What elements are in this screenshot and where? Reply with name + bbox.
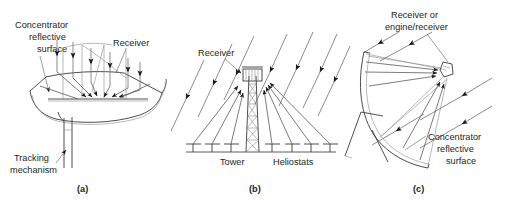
label-line-2: reflective	[29, 32, 66, 42]
label-tracking-mechanism: Tracking mechanism	[10, 150, 66, 175]
leader-line	[116, 49, 126, 73]
label-line-1: Concentrator	[428, 132, 481, 142]
label-tower: Tower	[220, 157, 245, 167]
label-line-3: surface	[37, 44, 67, 54]
label-line-1: Concentrator	[15, 20, 68, 30]
heliostat	[285, 144, 300, 152]
tower-structure	[246, 76, 259, 152]
incident-sun-rays-b	[171, 32, 350, 131]
panel-a-trough: Concentrator reflective surface Receiver	[10, 20, 166, 194]
panel-c-dish: Receiver or engine/receiver	[345, 10, 492, 194]
label-receiver-b: Receiver	[198, 48, 241, 73]
panel-caption-c: (c)	[413, 184, 424, 194]
label-line-1: Receiver or	[391, 10, 438, 20]
label-line-3: surface	[446, 156, 476, 166]
label-text: Receiver	[198, 48, 234, 58]
trough-reflector-surface	[30, 72, 166, 125]
incident-sun-rays-c	[363, 32, 492, 148]
label-line-2: mechanism	[10, 165, 57, 175]
panel-caption-a: (a)	[77, 184, 88, 194]
tower-receiver	[242, 67, 263, 81]
dish-receiver-module	[440, 62, 453, 77]
label-text: Receiver	[113, 38, 149, 48]
label-receiver-c: Receiver or engine/receiver	[385, 10, 448, 62]
heliostat	[304, 144, 319, 152]
heliostat	[323, 144, 338, 152]
panel-b-power-tower: Receiver	[171, 32, 350, 194]
heliostat	[205, 144, 220, 152]
reflected-rays-b	[193, 83, 330, 144]
label-line-2: reflective	[437, 144, 474, 154]
solar-concentrator-figure: Concentrator reflective surface Receiver	[0, 0, 506, 200]
label-receiver-a: Receiver	[113, 38, 149, 73]
label-line-2: engine/receiver	[385, 22, 448, 32]
reflected-rays-c	[365, 62, 444, 160]
heliostat	[224, 144, 239, 152]
panel-caption-b: (b)	[249, 184, 261, 194]
reflected-rays-a	[40, 72, 150, 99]
leader-line	[225, 59, 241, 73]
heliostat	[265, 144, 280, 152]
heliostat	[186, 144, 201, 152]
leader-line	[56, 150, 66, 163]
leader-line	[427, 34, 448, 62]
heliostat-field	[186, 144, 338, 152]
label-line-1: Tracking	[14, 153, 49, 163]
label-heliostats: Heliostats	[273, 157, 314, 167]
